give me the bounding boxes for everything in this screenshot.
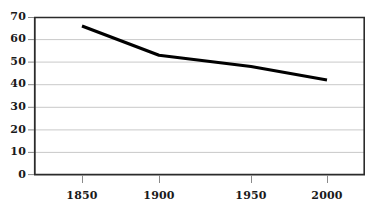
chart-canvas bbox=[0, 0, 377, 212]
xtick-label-1950: 1950 bbox=[228, 190, 274, 201]
ytick-label-50: 50 bbox=[2, 56, 26, 67]
xtick-label-2000: 2000 bbox=[304, 190, 350, 201]
plot-area-background bbox=[34, 17, 365, 175]
x-axis-ticks bbox=[83, 175, 328, 183]
y-axis-ticks bbox=[28, 18, 34, 175]
ytick-label-70: 70 bbox=[2, 11, 26, 22]
xtick-label-1900: 1900 bbox=[136, 190, 182, 201]
ytick-label-30: 30 bbox=[2, 101, 26, 112]
ytick-label-60: 60 bbox=[2, 33, 26, 44]
line-chart: 70 60 50 40 30 20 10 0 1850 1900 1950 20… bbox=[0, 0, 377, 212]
ytick-label-40: 40 bbox=[2, 78, 26, 89]
ytick-label-10: 10 bbox=[2, 146, 26, 157]
ytick-label-0: 0 bbox=[2, 169, 26, 180]
xtick-label-1850: 1850 bbox=[59, 190, 105, 201]
ytick-label-20: 20 bbox=[2, 124, 26, 135]
